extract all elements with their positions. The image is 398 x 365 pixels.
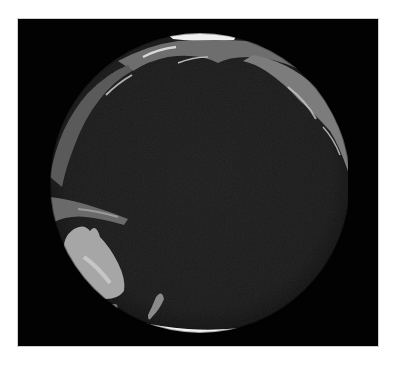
earth-globe (48, 27, 348, 335)
image-frame: Satellite composite view of Earth center… (17, 18, 379, 347)
